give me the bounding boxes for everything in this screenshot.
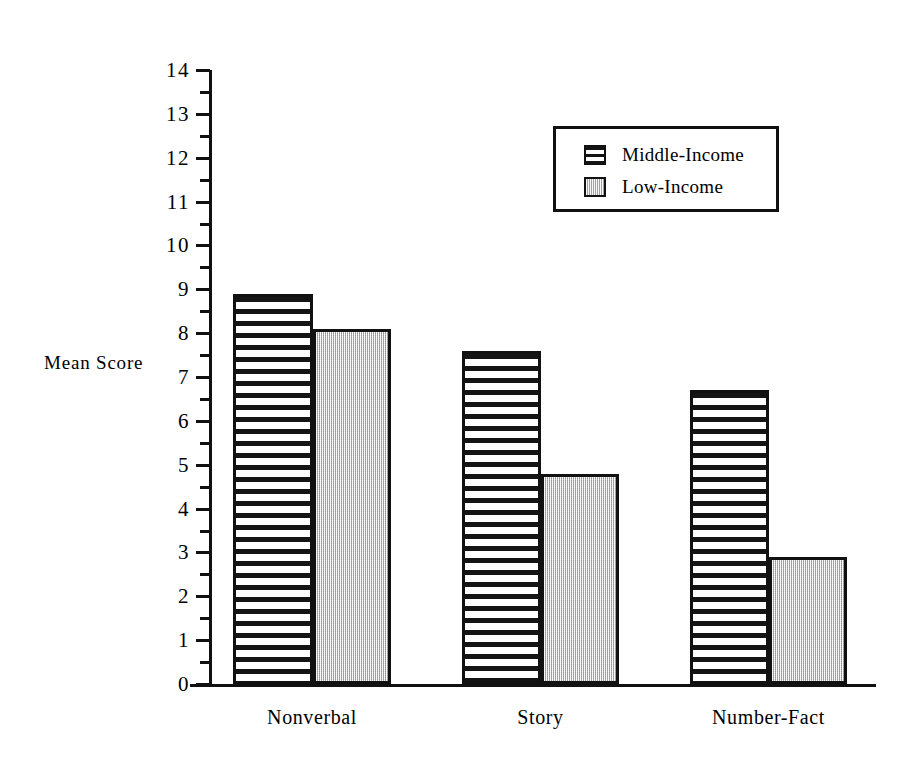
- legend-swatch-stipple-icon: [584, 177, 606, 197]
- plot-area: [0, 0, 919, 780]
- bar-chart: Mean Score 01234567891011121314 Nonverba…: [0, 0, 919, 780]
- bar-number-fact-low-income: [769, 557, 847, 684]
- bar-story-middle-income: [462, 351, 541, 684]
- legend-label-low-income: Low-Income: [622, 176, 723, 198]
- legend-swatch-striped-icon: [584, 145, 606, 165]
- legend-item-middle-income: Middle-Income: [584, 139, 776, 171]
- x-axis-category-label: Nonverbal: [267, 706, 357, 729]
- x-axis-category-label: Story: [517, 706, 563, 729]
- legend-label-middle-income: Middle-Income: [622, 144, 744, 166]
- chart-legend: Middle-Income Low-Income: [553, 126, 779, 212]
- x-axis-category-label: Number-Fact: [712, 706, 825, 729]
- bar-nonverbal-middle-income: [233, 294, 313, 684]
- legend-item-low-income: Low-Income: [584, 171, 776, 203]
- bar-number-fact-middle-income: [690, 390, 769, 684]
- bar-story-low-income: [541, 474, 619, 685]
- bar-nonverbal-low-income: [313, 329, 391, 684]
